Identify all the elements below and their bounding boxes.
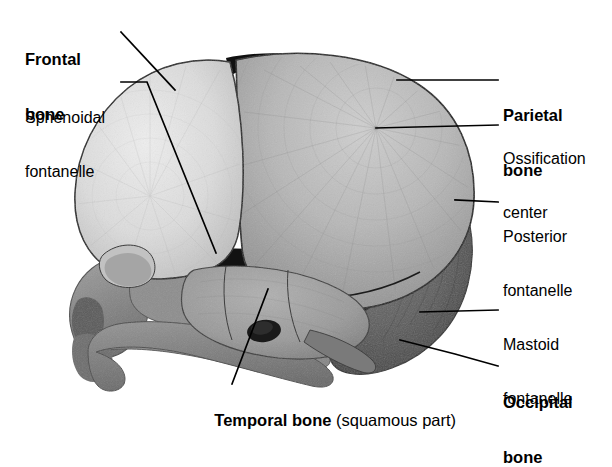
label-temporal-bone-regular: (squamous part) — [331, 411, 456, 429]
label-mastoid-fontanelle-line1: Mastoid — [503, 336, 572, 354]
label-posterior-fontanelle-line1: Posterior — [503, 228, 572, 246]
label-ossification-center-line1: Ossification — [503, 150, 586, 168]
label-sphenoidal-fontanelle-line1: Sphenoidal — [25, 109, 105, 127]
label-occipital-bone-line2: bone — [503, 448, 573, 466]
label-temporal-bone-bold: Temporal bone — [214, 411, 331, 429]
label-occipital-bone-line1: Occipital — [503, 393, 573, 411]
label-occipital-bone: Occipital bone — [503, 356, 573, 467]
parietal-bone — [232, 0, 520, 310]
label-temporal-bone: Temporal bone (squamous part) — [196, 393, 456, 448]
label-sphenoidal-fontanelle: Sphenoidal fontanelle — [25, 73, 105, 216]
label-sphenoidal-fontanelle-line2: fontanelle — [25, 163, 105, 181]
label-frontal-bone-line1: Frontal — [25, 50, 81, 68]
label-posterior-fontanelle-line2: fontanelle — [503, 282, 572, 300]
